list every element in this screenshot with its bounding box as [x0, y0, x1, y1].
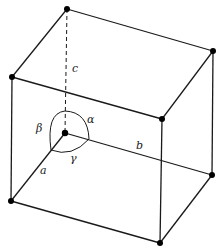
vertex: [157, 240, 163, 246]
label-b: b: [136, 139, 143, 152]
c-axis: [65, 9, 67, 133]
label-beta: β: [35, 122, 42, 135]
edge: [162, 51, 213, 119]
edge: [212, 51, 213, 175]
vertex: [8, 198, 14, 204]
edge: [11, 201, 160, 243]
label-alpha: α: [87, 113, 95, 126]
vertex: [9, 74, 15, 80]
a-axis: [11, 133, 65, 201]
edge: [67, 9, 213, 51]
vertex: [209, 172, 215, 178]
beta-arc: [50, 111, 65, 150]
label-c: c: [72, 62, 78, 75]
gamma-arc: [51, 139, 89, 152]
edge: [160, 119, 162, 243]
edge: [11, 77, 12, 201]
vertex: [159, 116, 165, 122]
alpha-arc: [65, 111, 89, 139]
edge: [12, 9, 67, 77]
origin-vertex: [62, 130, 68, 136]
unit-cell-diagram: c b a α β γ: [0, 0, 222, 248]
label-a: a: [40, 164, 47, 177]
vertex: [64, 6, 70, 12]
label-gamma: γ: [70, 152, 77, 165]
edge: [160, 175, 212, 243]
vertex: [210, 48, 216, 54]
